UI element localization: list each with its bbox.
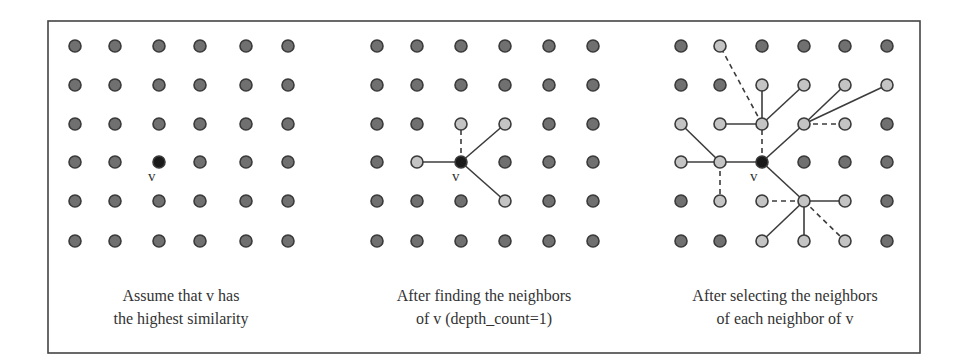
graph-node xyxy=(69,195,81,207)
neighbor-node xyxy=(839,118,851,130)
solid-edge xyxy=(762,85,804,124)
panel-initial-node: v Assume that v has the highest similari… xyxy=(69,40,294,328)
neighbor-node xyxy=(798,118,810,130)
neighbor-node xyxy=(798,195,810,207)
node-grid xyxy=(371,40,599,247)
graph-node xyxy=(675,195,687,207)
graph-node xyxy=(881,118,893,130)
graph-node xyxy=(69,118,81,130)
panel-second-neighbors: v After selecting the neighbors of each … xyxy=(675,40,893,328)
graph-node xyxy=(371,40,383,52)
caption-line-2: of each neighbor of v xyxy=(717,310,854,328)
graph-node xyxy=(194,79,206,91)
neighbor-node xyxy=(756,195,768,207)
neighbor-node xyxy=(839,79,851,91)
graph-node xyxy=(153,40,165,52)
neighbor-node xyxy=(881,79,893,91)
v-node-label: v xyxy=(750,168,758,184)
caption-line-1: After selecting the neighbors xyxy=(692,287,877,305)
graph-node xyxy=(499,79,511,91)
graph-node xyxy=(839,156,851,168)
neighbor-node xyxy=(798,235,810,247)
graph-node xyxy=(411,79,423,91)
neighbor-node xyxy=(455,118,467,130)
graph-node xyxy=(499,156,511,168)
neighbor-node xyxy=(756,118,768,130)
graph-node xyxy=(543,118,555,130)
graph-node xyxy=(543,40,555,52)
graph-node xyxy=(371,195,383,207)
neighbor-node xyxy=(714,40,726,52)
graph-node xyxy=(714,79,726,91)
node-grid xyxy=(69,40,294,247)
graph-node xyxy=(543,79,555,91)
graph-node xyxy=(756,40,768,52)
graph-node xyxy=(69,235,81,247)
graph-node xyxy=(543,156,555,168)
graph-node xyxy=(282,118,294,130)
graph-node xyxy=(153,118,165,130)
v-node xyxy=(756,156,768,168)
neighbor-node xyxy=(756,235,768,247)
graph-node xyxy=(371,79,383,91)
solid-edge xyxy=(461,124,505,162)
graph-node xyxy=(675,79,687,91)
v-node xyxy=(455,156,467,168)
graph-node xyxy=(240,79,252,91)
graph-node xyxy=(455,235,467,247)
graph-node xyxy=(371,156,383,168)
neighbor-node xyxy=(411,156,423,168)
graph-node xyxy=(881,40,893,52)
neighbor-node xyxy=(714,156,726,168)
graph-node xyxy=(240,195,252,207)
graph-node xyxy=(455,195,467,207)
graph-node xyxy=(69,156,81,168)
neighbor-node xyxy=(798,79,810,91)
v-node-label: v xyxy=(148,168,156,184)
graph-node xyxy=(282,156,294,168)
graph-node xyxy=(881,156,893,168)
solid-edge xyxy=(681,124,720,162)
graph-node xyxy=(282,235,294,247)
caption-line-2: the highest similarity xyxy=(113,310,248,328)
graph-node xyxy=(194,235,206,247)
graph-node xyxy=(714,235,726,247)
graph-node xyxy=(194,40,206,52)
graph-node xyxy=(499,40,511,52)
neighbor-node xyxy=(839,235,851,247)
neighbor-node xyxy=(499,195,511,207)
neighbor-node xyxy=(839,195,851,207)
graph-node xyxy=(499,235,511,247)
graph-node xyxy=(455,79,467,91)
graph-node xyxy=(411,40,423,52)
graph-node xyxy=(153,79,165,91)
solid-edge xyxy=(461,162,505,201)
graph-node xyxy=(109,156,121,168)
v-node-label: v xyxy=(452,168,460,184)
graph-node xyxy=(675,235,687,247)
neighbor-node xyxy=(714,118,726,130)
graph-node xyxy=(69,79,81,91)
v-node xyxy=(153,156,165,168)
neighbor-node xyxy=(675,118,687,130)
caption-line-2: of v (depth_count=1) xyxy=(416,310,552,328)
caption-line-1: Assume that v has xyxy=(123,287,240,304)
graph-node xyxy=(587,156,599,168)
graph-node xyxy=(411,235,423,247)
graph-node xyxy=(153,195,165,207)
graph-node xyxy=(371,118,383,130)
graph-node xyxy=(839,40,851,52)
graph-node xyxy=(240,235,252,247)
graph-node xyxy=(371,235,383,247)
node-grid xyxy=(675,40,893,247)
graph-node xyxy=(194,156,206,168)
graph-node xyxy=(798,156,810,168)
graph-node xyxy=(240,156,252,168)
graph-node xyxy=(109,235,121,247)
graph-node xyxy=(881,195,893,207)
graph-node xyxy=(282,40,294,52)
neighbor-node xyxy=(714,195,726,207)
graph-node xyxy=(455,40,467,52)
edge-layer xyxy=(681,46,887,241)
graph-node xyxy=(109,118,121,130)
